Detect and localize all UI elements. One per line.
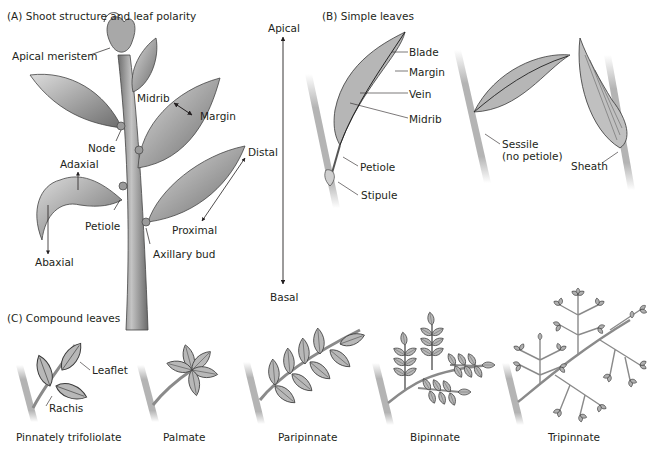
label-petiole-a: Petiole [85,220,120,232]
label-axillary-bud: Axillary bud [153,248,215,260]
caption-pinnately-trifoliolate: Pinnately trifoliolate [16,431,121,443]
label-petiole-b: Petiole [360,161,395,173]
caption-tripinnate: Tripinnate [548,431,600,443]
leaf-tripinnate [502,288,647,425]
simple-leaf-petiolate [305,32,408,208]
label-sessile: Sessile [502,138,538,150]
leaf-bipinnate [372,312,495,425]
panel-c-title: (C) Compound leaves [7,312,120,324]
label-apical-meristem: Apical meristem [12,50,97,62]
label-sheath: Sheath [571,160,608,172]
leaf-palmate [137,344,219,422]
simple-leaf-sessile [454,50,570,183]
label-sessile-note: (no petiole) [502,150,563,162]
panel-b-title: (B) Simple leaves [322,10,414,22]
label-stipule: Stipule [361,189,397,201]
leaf-paripinnate [243,328,366,424]
caption-paripinnate: Paripinnate [278,431,337,443]
label-margin-b: Margin [409,66,445,78]
label-midrib-a: Midrib [137,92,170,104]
axis-label-basal: Basal [270,291,298,303]
axis-label-apical: Apical [268,22,300,34]
caption-bipinnate: Bipinnate [410,431,460,443]
label-leaflet: Leaflet [92,364,128,376]
label-blade: Blade [409,46,439,58]
label-rachis: Rachis [49,402,83,414]
label-node: Node [88,142,115,154]
caption-palmate: Palmate [163,431,205,443]
label-distal: Distal [248,146,278,158]
panel-a-title: (A) Shoot structure and leaf polarity [7,10,196,22]
label-abaxial: Abaxial [35,256,74,268]
label-adaxial: Adaxial [60,158,99,170]
label-proximal: Proximal [172,224,217,236]
label-margin-a: Margin [200,110,236,122]
label-midrib-b: Midrib [409,113,442,125]
label-vein: Vein [409,88,431,100]
